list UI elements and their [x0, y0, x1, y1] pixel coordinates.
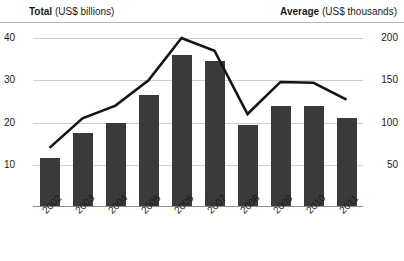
left-tick-30: 30 — [4, 75, 15, 85]
plot-area — [33, 38, 363, 207]
left-tick-20: 20 — [4, 118, 15, 128]
right-axis-title-bold: Average — [280, 6, 319, 17]
line-series — [33, 38, 363, 207]
left-axis-title-unit: (US$ billions) — [52, 6, 114, 17]
right-axis-title-unit: (US$ thousands) — [319, 6, 397, 17]
right-axis-title: Average (US$ thousands) — [280, 5, 397, 18]
right-tick-100: 100 — [381, 118, 398, 128]
average-line-path — [50, 38, 347, 148]
left-axis-title: Total (US$ billions) — [29, 5, 114, 18]
x-axis-tick-labels: 2002200320042005200620072008200920102011 — [33, 208, 363, 256]
right-tick-150: 150 — [381, 75, 398, 85]
left-tick-10: 10 — [4, 160, 15, 170]
header-divider — [0, 22, 404, 23]
right-tick-50: 50 — [387, 160, 398, 170]
left-tick-40: 40 — [4, 33, 15, 43]
chart-container: Total (US$ billions) Average (US$ thousa… — [0, 0, 404, 261]
left-axis-title-bold: Total — [29, 6, 52, 17]
right-tick-200: 200 — [381, 33, 398, 43]
